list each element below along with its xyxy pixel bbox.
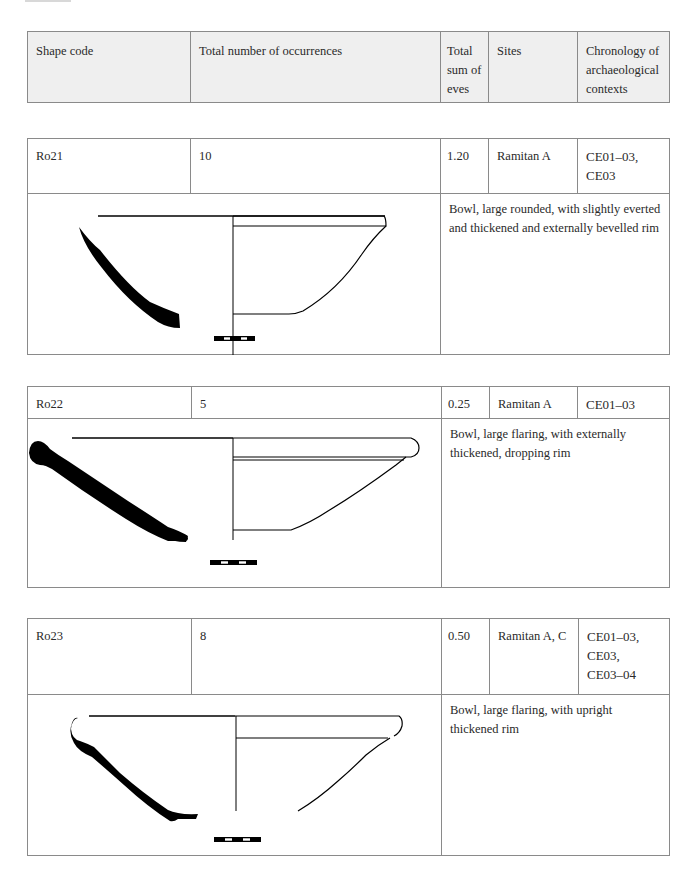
chronology: CE01–03, CE03, CE03–04 <box>579 619 670 695</box>
shape-code: Ro23 <box>28 619 192 695</box>
header-sites: Sites <box>489 32 578 103</box>
entry-info-row: Ro23 8 0.50 Ramitan A, C CE01–03, CE03, … <box>28 619 670 695</box>
shape-code: Ro21 <box>28 139 191 194</box>
entry-drawing-row: Bowl, large rounded, with slightly evert… <box>28 194 670 355</box>
header-table: Shape code Total number of occurrences T… <box>27 31 670 103</box>
pottery-drawing <box>28 419 442 588</box>
occurrences: 5 <box>192 387 442 419</box>
occurrences: 10 <box>191 139 441 194</box>
entry-r023: Ro23 8 0.50 Ramitan A, C CE01–03, CE03, … <box>27 618 670 856</box>
shape-description: Bowl, large flaring, with externally thi… <box>442 419 670 588</box>
chronology-line: CE01–03 <box>586 395 662 414</box>
bowl-profile-drawing <box>28 695 442 856</box>
chronology-line: CE01–03, <box>586 147 662 166</box>
eves: 1.20 <box>441 139 489 194</box>
entry-drawing-row: Bowl, large flaring, with upright thicke… <box>28 695 670 856</box>
chronology-line: CE03 <box>586 166 662 185</box>
sites: Ramitan A, C <box>490 619 579 695</box>
eves: 0.25 <box>442 387 490 419</box>
sites: Ramitan A <box>489 139 578 194</box>
entry-info-row: Ro21 10 1.20 Ramitan A CE01–03, CE03 <box>28 139 670 194</box>
entry-r022: Ro22 5 0.25 Ramitan A CE01–03 <box>27 386 670 588</box>
header-total-occurrences: Total number of occurrences <box>191 32 441 103</box>
pottery-drawing <box>28 194 441 355</box>
eves: 0.50 <box>442 619 490 695</box>
shape-code: Ro22 <box>28 387 192 419</box>
page-top-mark <box>25 0 71 2</box>
entry-r021: Ro21 10 1.20 Ramitan A CE01–03, CE03 <box>27 138 670 355</box>
bowl-profile-drawing <box>28 194 441 355</box>
shape-description: Bowl, large rounded, with slightly evert… <box>441 194 670 355</box>
shape-description: Bowl, large flaring, with upright thicke… <box>442 695 670 856</box>
sites: Ramitan A <box>490 387 578 419</box>
pottery-drawing <box>28 695 442 856</box>
chronology-line: CE03–04 <box>587 665 662 684</box>
bowl-profile-drawing <box>28 419 442 588</box>
header-chronology: Chronology of archaeological contexts <box>578 32 670 103</box>
occurrences: 8 <box>192 619 442 695</box>
header-total-eves: Total sum of eves <box>441 32 489 103</box>
chronology-line: CE03, <box>587 646 662 665</box>
chronology: CE01–03 <box>578 387 670 419</box>
chronology-line: CE01–03, <box>587 627 662 646</box>
header-shape-code: Shape code <box>28 32 191 103</box>
entry-drawing-row: Bowl, large flaring, with externally thi… <box>28 419 670 588</box>
header-row: Shape code Total number of occurrences T… <box>28 32 670 103</box>
entry-info-row: Ro22 5 0.25 Ramitan A CE01–03 <box>28 387 670 419</box>
chronology: CE01–03, CE03 <box>578 139 670 194</box>
